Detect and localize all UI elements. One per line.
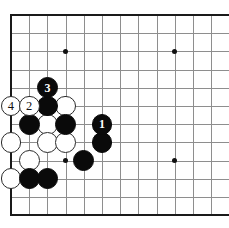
black-stone-move-1[interactable]: 1 [92, 114, 113, 135]
stone-move-number-label: 2 [26, 100, 32, 113]
white-stone[interactable] [55, 132, 76, 153]
board-edge-bottom [10, 214, 229, 216]
grid-line-vertical [211, 15, 212, 215]
go-board-surface[interactable]: 4231 [0, 0, 229, 228]
grid-line-vertical [138, 15, 139, 215]
board-edge-top [10, 14, 229, 16]
stone-move-number-label: 3 [44, 82, 50, 94]
star-bottom-left-icon [63, 158, 68, 163]
grid-line-vertical [84, 15, 85, 215]
white-stone-move-2[interactable]: 2 [19, 96, 40, 117]
black-stone[interactable] [19, 114, 40, 135]
star-top-left-icon [63, 49, 68, 54]
grid-line-vertical [120, 15, 121, 215]
stone-move-number-label: 4 [8, 100, 14, 113]
star-top-right-icon [172, 49, 177, 54]
black-stone[interactable] [73, 150, 94, 171]
black-stone[interactable] [55, 114, 76, 135]
black-stone[interactable] [37, 96, 58, 117]
black-stone[interactable] [37, 168, 58, 189]
black-stone-move-3[interactable]: 3 [37, 77, 58, 98]
grid-line-vertical [175, 15, 176, 215]
star-bottom-right-icon [172, 158, 177, 163]
grid-line-vertical [157, 15, 158, 215]
go-board-diagram: 4231 [0, 0, 229, 228]
grid-line-vertical [193, 15, 194, 215]
white-stone[interactable] [1, 132, 22, 153]
black-stone[interactable] [92, 132, 113, 153]
stone-move-number-label: 1 [99, 118, 105, 130]
